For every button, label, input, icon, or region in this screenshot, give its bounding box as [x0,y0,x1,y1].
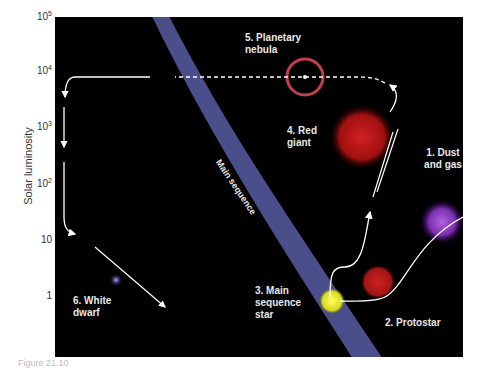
y-tick-1e4: 104 [22,64,52,76]
label-main-sequence-star: 3. Main sequence star [255,285,315,321]
y-tick-1e5: 105 [22,10,52,22]
label-planetary-nebula: 5. Planetary nebula [245,32,315,56]
hr-diagram-plot: 5. Planetary nebula 4. Red giant 1. Dust… [55,17,463,357]
label-white-dwarf: 6. White dwarf [73,295,123,319]
y-tick-1e3: 103 [22,120,52,132]
figure-caption: Figure 21.10 [18,358,69,368]
label-protostar: 2. Protostar [385,317,463,329]
white-dwarf [110,274,122,286]
y-tick-1e2: 102 [22,177,52,189]
y-tick-1: 1 [22,290,52,301]
label-dust-gas: 1. Dust and gas [423,147,463,171]
y-tick-10: 10 [22,234,52,245]
dust-cloud [420,200,463,244]
label-red-giant: 4. Red giant [287,125,335,149]
